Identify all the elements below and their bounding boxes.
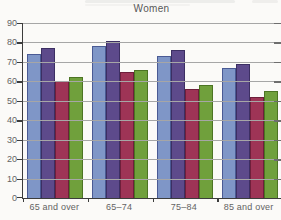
y-tick-label: 60 bbox=[7, 76, 17, 86]
gridline bbox=[23, 42, 281, 43]
right-edge-tick bbox=[274, 23, 281, 24]
gridline bbox=[23, 120, 281, 121]
right-edge-tick bbox=[274, 120, 281, 121]
y-axis-tick bbox=[17, 179, 23, 180]
y-tick-label: 10 bbox=[7, 174, 17, 184]
y-tick-label: 80 bbox=[7, 37, 17, 47]
bar-maroon-75-84 bbox=[185, 89, 199, 198]
right-edge-tick bbox=[274, 159, 281, 160]
bar-maroon-85-and-over bbox=[250, 97, 264, 198]
y-tick-label: 50 bbox=[7, 96, 17, 106]
bar-green-85-and-over bbox=[264, 91, 278, 198]
bar-purple-65-and-over bbox=[41, 48, 55, 198]
right-edge-tick bbox=[274, 62, 281, 63]
bar-group-75-84 bbox=[153, 23, 218, 198]
y-axis-tick bbox=[17, 140, 23, 141]
bar-group-85-and-over bbox=[217, 23, 281, 198]
gridline bbox=[23, 159, 281, 160]
chart-title: Women bbox=[22, 3, 281, 15]
right-edge-tick bbox=[274, 81, 281, 82]
bar-purple-75-84 bbox=[171, 50, 185, 198]
x-tick-label: 65 and over bbox=[22, 202, 87, 212]
y-tick-label: 40 bbox=[7, 115, 17, 125]
right-edge-tick bbox=[274, 42, 281, 43]
x-axis-labels: 65 and over65–7475–8485 and over bbox=[22, 202, 281, 212]
y-axis-tick bbox=[17, 23, 23, 24]
bar-group-65-74 bbox=[88, 23, 153, 198]
plot-area bbox=[22, 23, 281, 198]
chart-panel: Women 0102030405060708090 65 and over65–… bbox=[0, 0, 281, 220]
y-tick-label: 70 bbox=[7, 57, 17, 67]
bar-blue-65-74 bbox=[92, 46, 106, 198]
y-axis-tick bbox=[17, 120, 23, 121]
gridline bbox=[23, 179, 281, 180]
bars-layer bbox=[23, 23, 281, 198]
gridline bbox=[23, 140, 281, 141]
bar-blue-65-and-over bbox=[27, 54, 41, 198]
bar-green-75-84 bbox=[199, 85, 213, 198]
gridline bbox=[23, 23, 281, 24]
bar-blue-75-84 bbox=[157, 56, 171, 198]
x-axis-line bbox=[22, 198, 281, 199]
x-axis-tick bbox=[153, 198, 154, 202]
y-axis-tick bbox=[17, 42, 23, 43]
gridline bbox=[23, 101, 281, 102]
y-axis-tick bbox=[17, 81, 23, 82]
right-edge-tick bbox=[274, 140, 281, 141]
right-edge-tick bbox=[274, 179, 281, 180]
bar-green-65-and-over bbox=[69, 77, 83, 198]
gridline bbox=[23, 62, 281, 63]
y-axis-tick bbox=[17, 159, 23, 160]
x-axis-tick bbox=[217, 198, 218, 202]
gridline bbox=[23, 81, 281, 82]
y-axis-tick bbox=[17, 101, 23, 102]
y-tick-label: 90 bbox=[7, 18, 17, 28]
x-tick-label: 65–74 bbox=[87, 202, 152, 212]
x-tick-label: 85 and over bbox=[216, 202, 281, 212]
x-axis-tick bbox=[23, 198, 24, 202]
y-tick-label: 30 bbox=[7, 135, 17, 145]
x-axis-tick bbox=[88, 198, 89, 202]
y-axis-tick bbox=[17, 62, 23, 63]
y-tick-label: 20 bbox=[7, 154, 17, 164]
y-axis-labels: 0102030405060708090 bbox=[0, 23, 19, 198]
bar-group-65-and-over bbox=[23, 23, 88, 198]
x-tick-label: 75–84 bbox=[152, 202, 217, 212]
right-edge-tick bbox=[274, 101, 281, 102]
